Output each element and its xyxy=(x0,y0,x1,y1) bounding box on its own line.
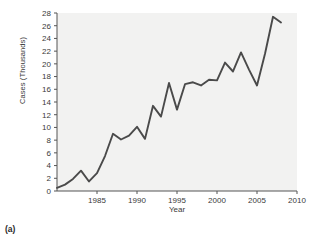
svg-text:0: 0 xyxy=(47,187,52,196)
svg-text:14: 14 xyxy=(42,98,51,107)
panel-caption: (a) xyxy=(5,224,15,234)
svg-text:28: 28 xyxy=(42,9,51,18)
svg-text:10: 10 xyxy=(42,123,51,132)
svg-text:1985: 1985 xyxy=(88,196,106,205)
svg-text:1995: 1995 xyxy=(168,196,186,205)
svg-text:4: 4 xyxy=(47,161,52,170)
x-axis-title: Year xyxy=(57,205,297,214)
figure-panel-a: Cases (Thousands) 0246810121416182022242… xyxy=(0,0,324,241)
svg-text:8: 8 xyxy=(47,136,52,145)
svg-text:26: 26 xyxy=(42,22,51,31)
plot-background xyxy=(57,13,297,191)
svg-text:2010: 2010 xyxy=(288,196,306,205)
svg-text:24: 24 xyxy=(42,34,51,43)
y-axis-ticks: 0246810121416182022242628 xyxy=(42,9,57,196)
svg-text:6: 6 xyxy=(47,149,52,158)
svg-text:12: 12 xyxy=(42,111,51,120)
svg-text:1990: 1990 xyxy=(128,196,146,205)
svg-text:20: 20 xyxy=(42,60,51,69)
svg-text:2: 2 xyxy=(47,174,52,183)
x-axis-ticks: 198519901995200020052010 xyxy=(88,191,306,205)
svg-text:16: 16 xyxy=(42,85,51,94)
svg-text:18: 18 xyxy=(42,72,51,81)
svg-text:2000: 2000 xyxy=(208,196,226,205)
svg-text:2005: 2005 xyxy=(248,196,266,205)
svg-text:22: 22 xyxy=(42,47,51,56)
